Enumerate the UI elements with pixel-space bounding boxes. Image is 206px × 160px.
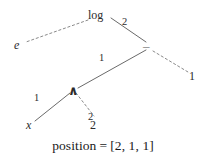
edge-log-to-minus — [111, 18, 146, 42]
edge-label-2-caret-two: 2 — [88, 112, 93, 123]
caption-value: [2, 1, 1] — [110, 138, 154, 153]
expression-tree-figure: log e – 1 ∧ x 2 2 1 1 2 position=[2, 1, … — [0, 0, 206, 160]
node-one-right: 1 — [189, 70, 195, 82]
edge-label-1-caret-x: 1 — [34, 93, 39, 104]
node-x: x — [26, 119, 31, 131]
edge-caret-to-x — [35, 93, 70, 121]
node-e: e — [14, 39, 19, 51]
caption-equals: = — [96, 138, 110, 153]
node-minus-operator: – — [143, 39, 150, 52]
edge-minus-to-one — [153, 51, 188, 72]
node-caret-power: ∧ — [68, 84, 79, 97]
edge-label-1-minus-caret: 1 — [99, 53, 104, 64]
tree-edges-canvas — [0, 0, 206, 160]
caption-label: position — [52, 138, 96, 153]
node-log: log — [88, 9, 103, 21]
caption-position: position=[2, 1, 1] — [0, 138, 206, 154]
edge-minus-to-caret — [78, 50, 146, 88]
edge-log-to-e — [26, 20, 88, 42]
edge-label-2-log-minus: 2 — [122, 17, 127, 28]
